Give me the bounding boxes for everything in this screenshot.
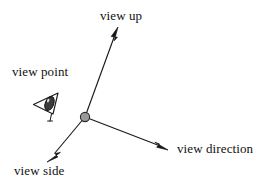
label-view-direction: view direction — [177, 141, 253, 156]
axis-view-up-shaft — [85, 36, 115, 117]
diagram-canvas — [0, 0, 265, 184]
origin-node — [80, 112, 89, 121]
label-view-side: view side — [14, 163, 64, 178]
axis-view-up-arrowhead — [111, 27, 118, 41]
view-frame-diagram: view up view point view side view direct… — [0, 0, 265, 184]
axis-view-side-shaft — [55, 117, 86, 154]
eye-viewing-frustum-icon — [34, 93, 59, 121]
label-view-up: view up — [100, 8, 142, 23]
label-view-point: view point — [12, 64, 68, 79]
axis-view-direction — [85, 117, 168, 150]
axis-view-up — [85, 27, 118, 117]
eye-stem — [50, 114, 52, 121]
axis-view-side-arrowhead — [47, 152, 60, 162]
axis-view-direction-arrowhead — [155, 142, 168, 150]
axis-view-side — [47, 117, 85, 162]
axis-view-direction-shaft — [85, 117, 159, 146]
